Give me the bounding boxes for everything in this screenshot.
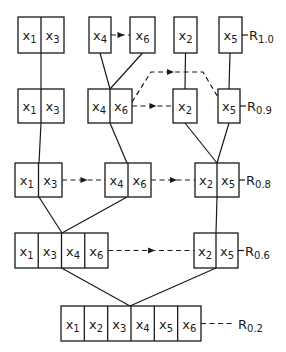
merge-edge — [110, 123, 127, 163]
merge-edge — [217, 123, 229, 163]
cluster-box: x1x3 — [15, 163, 62, 197]
cluster-box: x4x6 — [105, 163, 151, 197]
level-label: R0.9 — [247, 99, 272, 116]
arrowhead-icon — [118, 32, 125, 38]
cluster-box: x4 — [89, 17, 111, 53]
merge-edge — [130, 268, 216, 306]
cluster-box: x2 — [173, 89, 197, 123]
cluster-box: x1x3 — [18, 17, 64, 53]
cluster-box: x6 — [130, 17, 155, 53]
merge-edge — [39, 123, 41, 163]
level-label: R0.8 — [246, 173, 271, 190]
merge-edge — [216, 197, 217, 233]
cluster-box: x5 — [218, 89, 240, 123]
cluster-box: x5 — [219, 17, 242, 53]
cluster-box: x4x6 — [88, 89, 132, 123]
cluster-box: x2 — [174, 17, 197, 53]
arrowhead-icon — [170, 177, 177, 183]
merge-edge — [229, 53, 230, 89]
clustering-diagram: x1x3x4x6x2x5x1x3x4x6x2x5x1x3x4x6x2x5x1x3… — [0, 0, 286, 352]
level-label: R0.6 — [245, 244, 270, 261]
merge-edge — [62, 197, 127, 233]
merge-edge — [185, 53, 186, 89]
group-boxes: x1x3x4x6x2x5x1x3x4x6x2x5x1x3x4x6x2x5x1x3… — [15, 17, 242, 341]
arrowhead-icon — [167, 69, 174, 75]
merge-edge — [39, 197, 62, 233]
merge-edge — [62, 268, 131, 306]
cluster-box: x2x5 — [195, 163, 239, 197]
cluster-box: x2x5 — [194, 233, 238, 268]
level-label: R1.0 — [249, 28, 274, 45]
merge-edge — [100, 53, 110, 89]
merge-edge — [185, 123, 217, 163]
arrowhead-icon — [150, 103, 157, 109]
cluster-box: x1x3x4x6 — [15, 233, 108, 268]
arrowhead-icon — [148, 248, 155, 254]
merge-edge — [110, 53, 143, 89]
arrowhead-icon — [81, 177, 88, 183]
cluster-box: x1x2x3x4x5x6 — [61, 306, 201, 341]
cluster-box: x1x3 — [18, 89, 64, 123]
level-label: R0.2 — [238, 317, 263, 334]
